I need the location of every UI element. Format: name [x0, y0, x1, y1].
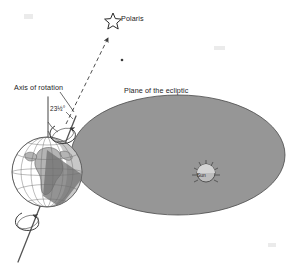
polaris-label: Polaris [121, 15, 144, 22]
polaris-star-icon [105, 13, 122, 29]
tilt-angle-label: 23½° [50, 106, 65, 112]
polaris-pointer-arrow [66, 38, 108, 124]
plane-of-the-ecliptic-label: Plane of the ecliptic [124, 87, 188, 94]
scan-artifact [24, 14, 33, 19]
sun-label: Sun [197, 172, 206, 178]
faint-star-icon [121, 59, 124, 62]
plane-of-the-ecliptic-shape [71, 95, 285, 215]
tilt-angle-arc [48, 122, 58, 139]
tilt-label-leader-line [66, 112, 73, 119]
astronomy-diagram: Polaris Axis of rotation Plane of the ec… [0, 0, 302, 275]
scan-artifact [268, 243, 276, 247]
scan-artifact [214, 46, 225, 50]
axis-of-rotation-label: Axis of rotation [14, 84, 63, 91]
diagram-canvas [0, 0, 302, 275]
